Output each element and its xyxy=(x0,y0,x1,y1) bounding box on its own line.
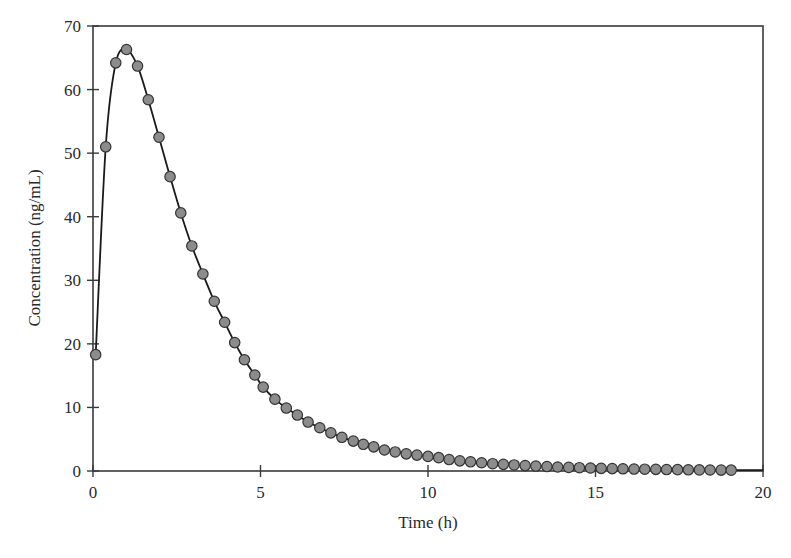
data-point-marker xyxy=(574,462,584,472)
data-point-marker xyxy=(143,95,153,105)
data-point-marker xyxy=(219,317,229,327)
data-point-marker xyxy=(672,464,682,474)
x-tick-label: 10 xyxy=(420,483,437,502)
data-point-marker xyxy=(552,462,562,472)
data-point-marker xyxy=(239,355,249,365)
data-point-marker xyxy=(348,436,358,446)
data-point-marker xyxy=(326,428,336,438)
data-point-marker xyxy=(292,410,302,420)
data-point-marker xyxy=(618,464,628,474)
data-point-marker xyxy=(358,439,368,449)
data-point-marker xyxy=(694,465,704,475)
data-point-marker xyxy=(154,132,164,142)
data-point-marker xyxy=(455,456,465,466)
data-point-marker xyxy=(726,465,736,475)
data-point-marker xyxy=(270,394,280,404)
fitted-curve xyxy=(96,49,763,470)
y-tick-label: 20 xyxy=(64,335,81,354)
data-point-marker xyxy=(390,447,400,457)
data-point-marker xyxy=(90,349,100,359)
x-tick-label: 0 xyxy=(89,483,98,502)
data-point-marker xyxy=(476,458,486,468)
data-point-marker xyxy=(165,171,175,181)
y-tick-label: 30 xyxy=(64,271,81,290)
data-point-marker xyxy=(281,403,291,413)
data-point-marker xyxy=(564,462,574,472)
data-point-marker xyxy=(629,464,639,474)
data-point-marker xyxy=(640,464,650,474)
data-point-marker xyxy=(520,460,530,470)
data-point-marker xyxy=(661,464,671,474)
data-point-marker xyxy=(465,457,475,467)
data-point-marker xyxy=(230,337,240,347)
data-point-marker xyxy=(716,465,726,475)
data-point-marker xyxy=(498,459,508,469)
data-point-marker xyxy=(412,450,422,460)
data-point-marker xyxy=(401,449,411,459)
data-point-marker xyxy=(444,454,454,464)
x-tick-label: 15 xyxy=(587,483,604,502)
y-tick-label: 10 xyxy=(64,398,81,417)
data-point-marker xyxy=(542,461,552,471)
data-point-marker xyxy=(303,417,313,427)
data-point-marker xyxy=(176,208,186,218)
data-point-marker xyxy=(423,451,433,461)
data-point-marker xyxy=(531,461,541,471)
data-point-marker xyxy=(315,423,325,433)
chart-canvas: 05101520 010203040506070 Time (h) Concen… xyxy=(0,0,791,558)
data-point-marker xyxy=(509,460,519,470)
data-point-marker xyxy=(101,142,111,152)
x-tick-label: 5 xyxy=(256,483,265,502)
data-point-marker xyxy=(434,452,444,462)
data-point-marker xyxy=(337,432,347,442)
data-point-marker xyxy=(607,463,617,473)
data-point-marker xyxy=(258,382,268,392)
y-axis-title: Concentration (ng/mL) xyxy=(25,169,44,326)
data-point-marker xyxy=(596,463,606,473)
data-point-marker xyxy=(651,464,661,474)
data-point-marker xyxy=(121,44,131,54)
data-point-marker xyxy=(250,370,260,380)
data-point-marker xyxy=(585,463,595,473)
y-tick-label: 60 xyxy=(64,81,81,100)
y-tick-label: 50 xyxy=(64,144,81,163)
data-point-marker xyxy=(198,269,208,279)
data-point-marker xyxy=(132,61,142,71)
concentration-time-chart: 05101520 010203040506070 Time (h) Concen… xyxy=(0,0,791,558)
y-tick-label: 0 xyxy=(73,462,82,481)
data-point-marker xyxy=(187,241,197,251)
data-point-marker xyxy=(379,445,389,455)
data-series xyxy=(90,44,763,475)
data-point-marker xyxy=(683,465,693,475)
y-tick-label: 70 xyxy=(64,17,81,36)
x-axis-title: Time (h) xyxy=(398,513,457,532)
data-point-marker xyxy=(369,442,379,452)
data-point-marker xyxy=(487,458,497,468)
x-tick-label: 20 xyxy=(755,483,772,502)
data-point-marker xyxy=(705,465,715,475)
data-point-marker xyxy=(111,58,121,68)
data-point-marker xyxy=(209,296,219,306)
y-tick-label: 40 xyxy=(64,208,81,227)
